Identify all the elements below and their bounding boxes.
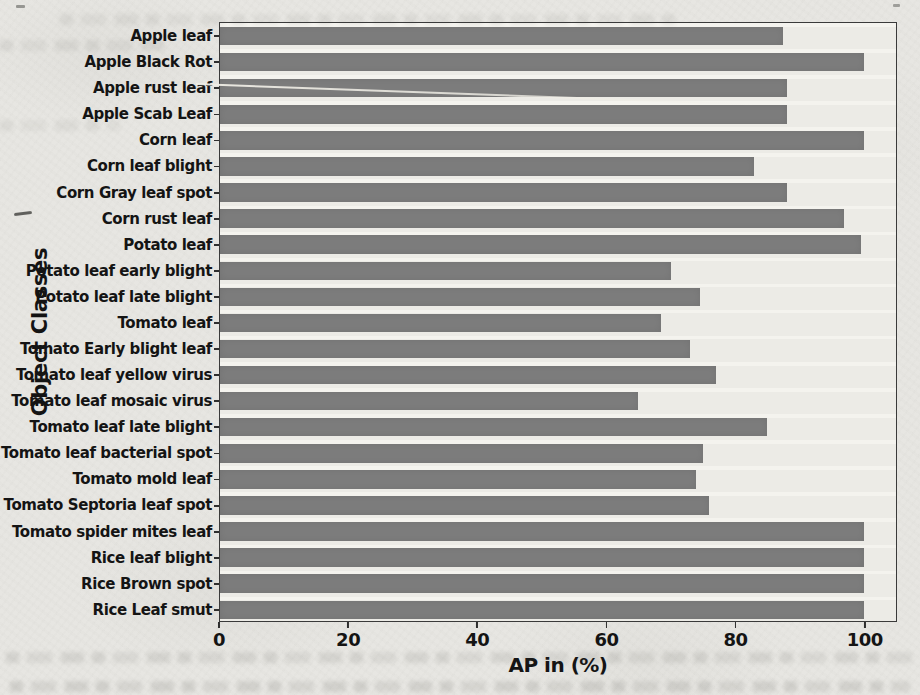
category-label: Corn rust leaf [102,209,212,227]
bar [220,574,864,593]
bar [220,288,700,307]
bar-row: Corn Gray leaf spot [220,179,896,205]
bar [220,79,787,98]
y-tick-mark [214,426,219,428]
bar [220,392,638,411]
x-axis-ticks: 020406080100 [219,622,897,652]
x-tick-label: 100 [847,629,883,650]
x-tick-label: 40 [465,629,489,650]
category-label: Tomato leaf bacterial spot [1,444,212,462]
category-label: Tomato leaf [117,314,212,332]
bar-row: Rice leaf blight [220,545,896,571]
x-tick-label: 80 [724,629,748,650]
x-tick-label: 20 [336,629,360,650]
bar-row: Tomato mold leaf [220,466,896,492]
bar [220,157,754,176]
category-label: Apple Scab Leaf [82,105,212,123]
category-label: Tomato leaf yellow virus [16,366,212,384]
bar [220,340,690,359]
category-label: Rice Leaf smut [93,600,212,618]
category-label: Corn leaf blight [87,157,212,175]
category-label: Apple rust leaf [93,79,212,97]
x-tick-label: 60 [594,629,618,650]
category-label: Tomato Septoria leaf spot [4,496,212,514]
x-tick: 100 [847,622,883,650]
bar-row: Apple Black Rot [220,49,896,75]
category-label: Tomato spider mites leaf [12,522,212,540]
x-tick-mark [476,622,478,628]
y-tick-mark [214,270,219,272]
bar-rows: Apple leafApple Black RotApple rust leaf… [220,23,896,621]
bar [220,183,787,202]
bar-row: Corn leaf [220,127,896,153]
y-tick-mark [214,322,219,324]
bar-row: Tomato leaf yellow virus [220,362,896,388]
bar-row: Potato leaf late blight [220,284,896,310]
category-label: Potato leaf [123,235,212,253]
x-tick-mark [218,622,220,628]
y-tick-mark [214,218,219,220]
scan-speck [893,4,900,7]
bar [220,131,864,150]
y-tick-mark [214,35,219,37]
bar-row: Tomato Septoria leaf spot [220,492,896,518]
x-tick-mark [606,622,608,628]
category-label: Tomato Early blight leaf [20,340,212,358]
bar [220,314,661,333]
y-tick-mark [214,453,219,455]
y-tick-mark [214,400,219,402]
y-tick-mark [214,87,219,89]
bar-row: Apple Scab Leaf [220,101,896,127]
bar [220,418,767,437]
bar [220,444,703,463]
bar-row: Potato leaf early blight [220,258,896,284]
x-tick: 80 [724,622,748,650]
category-label: Tomato leaf late blight [30,418,212,436]
x-tick-label: 0 [213,629,225,650]
y-tick-mark [214,244,219,246]
bar [220,548,864,567]
y-tick-mark [214,348,219,350]
category-label: Tomato mold leaf [72,470,212,488]
bar-row: Tomato spider mites leaf [220,518,896,544]
y-tick-mark [214,296,219,298]
bar [220,601,864,620]
bar [220,235,861,254]
y-tick-mark [214,479,219,481]
category-label: Rice leaf blight [91,548,212,566]
bar-row: Corn leaf blight [220,153,896,179]
category-label: Apple leaf [130,27,212,45]
bar-row: Apple leaf [220,23,896,49]
bar-chart-figure: Object Classes Apple leafApple Black Rot… [0,0,920,695]
x-tick: 60 [594,622,618,650]
scan-speck [16,5,25,8]
y-tick-mark [214,140,219,142]
category-label: Tomato leaf mosaic virus [11,392,212,410]
x-tick: 40 [465,622,489,650]
scanned-paper-page: Object Classes Apple leafApple Black Rot… [0,0,920,695]
y-tick-mark [214,557,219,559]
x-tick-mark [864,622,866,628]
category-label: Corn leaf [139,131,212,149]
bar-row: Potato leaf [220,232,896,258]
y-tick-mark [214,505,219,507]
category-label: Potato leaf early blight [26,261,212,279]
bar-row: Tomato leaf [220,310,896,336]
y-tick-mark [214,114,219,116]
y-tick-mark [214,374,219,376]
bar [220,53,864,72]
y-tick-mark [214,192,219,194]
x-tick: 0 [213,622,225,650]
x-tick-mark [347,622,349,628]
category-label: Corn Gray leaf spot [56,183,212,201]
bar [220,496,709,515]
x-tick: 20 [336,622,360,650]
bar [220,522,864,541]
x-tick-mark [735,622,737,628]
category-label: Apple Black Rot [85,53,212,71]
y-tick-mark [214,583,219,585]
bar-row: Corn rust leaf [220,206,896,232]
bar-row: Tomato leaf late blight [220,414,896,440]
y-tick-mark [214,61,219,63]
bar-row: Rice Leaf smut [220,597,896,623]
